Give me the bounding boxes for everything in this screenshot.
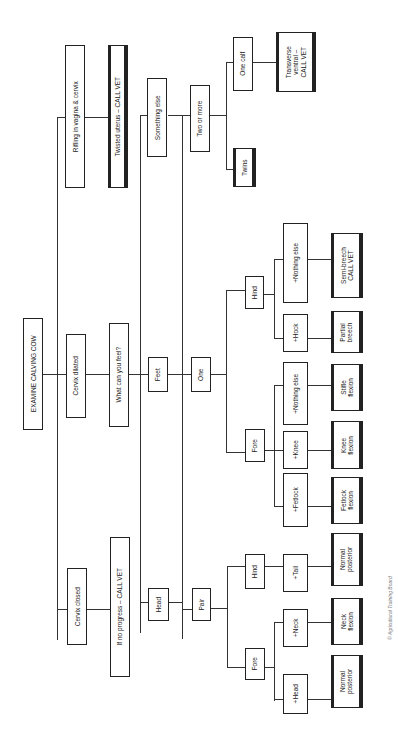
plus-head-node: +Head: [283, 674, 308, 714]
connector: [274, 385, 283, 386]
connector: [86, 374, 110, 375]
plus-tail-node: +Tail: [283, 554, 308, 592]
pair-fore-node: Fore: [245, 648, 265, 680]
connector: [168, 115, 182, 116]
connector: [182, 374, 191, 375]
normal-anterior-node: Normal posterior: [331, 655, 363, 708]
neck-flexion-node: Neck flexion: [331, 598, 363, 645]
stifle-flexion-node: Stifle flexion: [331, 364, 363, 411]
something-else-node: Something else: [147, 78, 167, 157]
no-progress-node: If no progress – CALL VET: [110, 537, 130, 677]
cervix-dilated-node: Cervix dilated: [66, 334, 86, 418]
credit-text: © Agricultural Training Board: [387, 576, 393, 640]
connector: [226, 169, 233, 170]
semi-breech-node: Semi-breech CALL VET: [331, 233, 363, 298]
connector: [274, 259, 283, 260]
root-node: EXAMINE CALVING COW: [23, 318, 43, 430]
connector: [227, 566, 228, 667]
connector: [87, 609, 110, 610]
plus-neck-node: +Neck: [283, 609, 308, 647]
connector: [210, 115, 226, 116]
connector: [274, 259, 275, 338]
one-node: One: [191, 357, 211, 392]
fore-nothing-else-node: +Nothing else: [283, 362, 308, 425]
rifling-node: Rifling in vagina & cervix: [65, 45, 85, 188]
connector: [274, 506, 283, 507]
connector: [264, 294, 274, 295]
transverse-node: Transverse ventral – CALL VET: [276, 32, 316, 92]
cervix-closed-node: Cervix closed: [67, 568, 87, 645]
connector: [57, 609, 67, 610]
connector: [226, 62, 227, 169]
head-node: Head: [148, 588, 169, 621]
connector: [57, 117, 58, 640]
connector: [274, 699, 283, 700]
connector: [211, 374, 226, 375]
connector: [308, 699, 331, 700]
connector: [274, 622, 283, 623]
knee-flexion-node: Knee flexion: [331, 421, 363, 469]
connector: [168, 374, 182, 375]
two-or-more-node: Two or more: [190, 85, 210, 152]
connector: [226, 62, 233, 63]
connector: [264, 667, 274, 668]
connector: [129, 374, 149, 375]
connector: [57, 374, 66, 375]
connector: [253, 62, 276, 63]
connector: [182, 609, 192, 610]
connector: [274, 385, 275, 506]
partial-breech-node: Partial breech: [331, 311, 363, 353]
one-calf-node: One calf: [233, 37, 253, 91]
twins-node: Twins: [233, 148, 256, 187]
connector: [227, 566, 245, 567]
connector: [43, 374, 57, 375]
connector: [274, 450, 283, 451]
pair-node: Pair: [192, 588, 211, 621]
connector: [182, 115, 183, 639]
twisted-uterus-node: Twisted uterus – CALL VET: [108, 45, 128, 188]
connector: [308, 385, 331, 386]
connector: [308, 566, 331, 567]
connector: [308, 338, 331, 339]
normal-posterior-node: Normal posterior: [331, 533, 363, 586]
connector: [85, 117, 110, 118]
one-fore-node: Fore: [245, 429, 265, 462]
connector: [274, 338, 283, 339]
one-hind-node: Hind: [245, 276, 264, 309]
plus-knee-node: +Knee: [283, 431, 308, 469]
fetlock-flexion-node: Fetlock flexion: [331, 477, 363, 524]
pair-hind-node: Hind: [245, 554, 265, 589]
connector: [227, 667, 245, 668]
connector: [226, 452, 245, 453]
connector: [308, 450, 331, 451]
plus-hock-node: +Hock: [283, 314, 308, 352]
what-feel-node: What can you feel?: [109, 323, 129, 427]
plus-fetlock-node: +Fetlock: [283, 473, 308, 527]
connector: [211, 608, 227, 609]
hind-nothing-else-node: +Nothing else: [283, 223, 308, 303]
connector: [264, 450, 274, 451]
connector: [274, 622, 275, 701]
connector: [265, 566, 283, 567]
connector: [226, 290, 245, 291]
connector: [308, 622, 331, 623]
connector: [169, 602, 182, 603]
feet-node: Feet: [148, 357, 168, 392]
connector: [226, 290, 227, 452]
connector: [308, 506, 331, 507]
connector: [308, 259, 331, 260]
